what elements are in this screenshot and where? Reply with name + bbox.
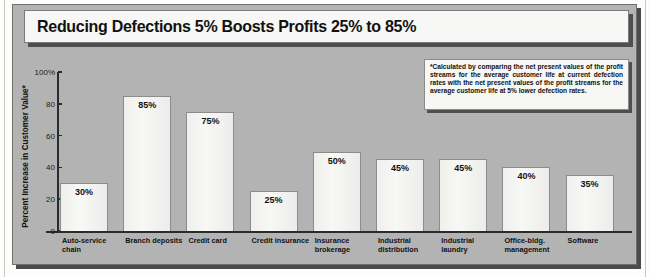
x-axis-category-label: Branch deposits <box>125 236 184 245</box>
x-axis-category-label: Industrial laundry <box>441 236 500 254</box>
bar-value-label: 25% <box>251 195 297 205</box>
y-axis-tick-label: 60 <box>46 131 55 140</box>
bar: 85% <box>123 96 171 231</box>
bar: 35% <box>566 175 614 231</box>
plot-area: Percent Increase in Customer Value* 0204… <box>0 0 650 277</box>
bar: 25% <box>250 191 298 231</box>
bar: 45% <box>376 159 424 231</box>
figure-root: Reducing Defections 5% Boosts Profits 25… <box>0 0 650 277</box>
x-axis-category-label: Office-bldg. management <box>504 236 563 254</box>
bar: 75% <box>186 112 234 231</box>
bar: 45% <box>439 159 487 231</box>
x-axis-category-label: Insurance brokerage <box>315 236 374 254</box>
y-axis-tick <box>58 135 62 137</box>
bar-value-label: 85% <box>124 100 170 110</box>
y-axis-tick <box>58 103 62 105</box>
bar-value-label: 35% <box>567 179 613 189</box>
x-axis-category-label: Credit card <box>188 236 247 245</box>
y-axis-tick-label: 80 <box>46 99 55 108</box>
bar: 40% <box>502 167 550 231</box>
bar-value-label: 45% <box>440 163 486 173</box>
y-axis-tick <box>58 167 62 169</box>
x-axis-category-label: Industrial distribution <box>378 236 437 254</box>
x-axis-category-label: Credit insurance <box>252 236 311 245</box>
bar-value-label: 45% <box>377 163 423 173</box>
y-axis-line <box>57 72 59 232</box>
y-axis-tick-label: 20 <box>46 195 55 204</box>
bar: 50% <box>313 152 361 232</box>
bar-value-label: 30% <box>61 187 107 197</box>
bar-value-label: 75% <box>187 116 233 126</box>
x-axis-category-label: Auto-service chain <box>62 236 121 254</box>
y-axis-tick <box>58 71 62 73</box>
y-axis-tick-label: 0 <box>51 227 55 236</box>
y-axis-tick-label: 100% <box>35 68 55 77</box>
bar-value-label: 40% <box>503 171 549 181</box>
y-axis-title: Percent Increase in Customer Value* <box>21 82 30 232</box>
bar: 30% <box>60 183 108 231</box>
y-axis-tick-label: 40 <box>46 163 55 172</box>
x-axis-category-label: Software <box>568 236 627 245</box>
x-axis-line <box>46 231 632 233</box>
bar-value-label: 50% <box>314 156 360 166</box>
